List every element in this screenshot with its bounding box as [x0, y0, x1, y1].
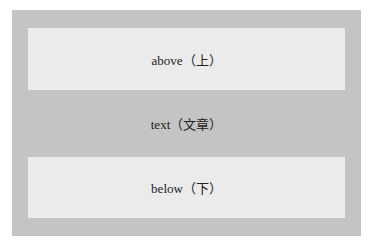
text-region: text（文章） [28, 90, 345, 157]
below-label: below（下） [151, 178, 222, 197]
below-box: below（下） [28, 157, 345, 218]
text-label: text（文章） [151, 114, 223, 133]
above-box: above（上） [28, 28, 345, 90]
above-label: above（上） [151, 50, 221, 69]
diagram-container: above（上） text（文章） below（下） [12, 10, 361, 236]
